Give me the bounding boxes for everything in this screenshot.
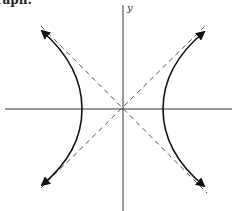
- hyperbola-left-branch: [42, 31, 82, 185]
- hyperbola-diagram: [0, 0, 232, 211]
